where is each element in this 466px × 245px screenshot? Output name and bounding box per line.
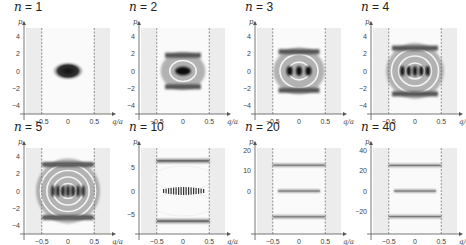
y-tick-label: 0 xyxy=(363,188,367,195)
y-axis-label: p xyxy=(133,138,138,146)
plot-panel-n-5: n = 5pq/a−0.500.5420−2−4 xyxy=(0,120,116,242)
y-tick-label: 0 xyxy=(247,188,251,195)
y-tick-label: −4 xyxy=(12,102,20,109)
y-tick-label: −4 xyxy=(127,102,135,109)
y-tick-label: 0 xyxy=(16,68,20,75)
x-tick-label: 0 xyxy=(181,238,185,245)
y-tick-label: 2 xyxy=(247,50,251,57)
y-axis-label: p xyxy=(133,18,138,26)
y-tick-label: 0 xyxy=(16,188,20,195)
x-tick-label: 0.5 xyxy=(204,238,214,245)
y-tick-label: 4 xyxy=(16,33,20,40)
x-tick-label: 0.5 xyxy=(89,238,99,245)
plot-panel-n-3: n = 3pq/a−0.500.5420−2−4 xyxy=(231,0,347,122)
y-tick-label: 2 xyxy=(363,50,367,57)
y-tick-label: −2 xyxy=(12,205,20,212)
y-axis-label: p xyxy=(365,138,370,146)
x-tick-label: −0.5 xyxy=(150,238,164,245)
y-tick-label: 2 xyxy=(16,50,20,57)
y-tick-label: 20 xyxy=(243,147,251,154)
x-tick-label: 0.5 xyxy=(320,238,330,245)
x-tick-label: −0.5 xyxy=(382,238,396,245)
phase-space-plot: pq/a−0.500.550−5 xyxy=(115,120,231,242)
y-axis-label: p xyxy=(18,138,23,146)
x-axis-label: q/a xyxy=(459,238,466,245)
density-pattern xyxy=(386,43,444,99)
plot-panel-n-10: n = 10pq/a−0.500.550−5 xyxy=(115,120,231,242)
y-tick-label: −20 xyxy=(355,208,367,215)
density-pattern xyxy=(51,61,85,81)
y-tick-label: 4 xyxy=(247,33,251,40)
y-tick-label: 10 xyxy=(243,167,251,174)
y-tick-label: −2 xyxy=(127,85,135,92)
y-tick-label: 4 xyxy=(131,33,135,40)
phase-space-plot: pq/a−0.500.520100 xyxy=(231,120,347,242)
x-tick-label: −0.5 xyxy=(35,238,49,245)
phase-space-plot: pq/a−0.500.5420−2−4 xyxy=(347,0,463,122)
density-pattern xyxy=(161,52,206,90)
plot-panel-n-40: n = 40pq/a−0.500.540200−20 xyxy=(347,120,463,242)
y-tick-label: 0 xyxy=(363,68,367,75)
y-tick-label: 2 xyxy=(16,170,20,177)
y-tick-label: 2 xyxy=(131,50,135,57)
x-tick-label: −0.5 xyxy=(266,238,280,245)
phase-space-plot: pq/a−0.500.5420−2−4 xyxy=(115,0,231,122)
y-tick-label: 0 xyxy=(131,68,135,75)
y-tick-label: 4 xyxy=(16,153,20,160)
y-tick-label: −4 xyxy=(243,102,251,109)
plot-panel-n-2: n = 2pq/a−0.500.5420−2−4 xyxy=(115,0,231,122)
y-axis-label: p xyxy=(18,18,23,26)
x-tick-label: 0 xyxy=(297,238,301,245)
phase-space-plot: pq/a−0.500.5420−2−4 xyxy=(0,0,116,122)
y-tick-label: −4 xyxy=(12,222,20,229)
y-tick-label: 20 xyxy=(359,167,367,174)
phase-space-plot: pq/a−0.500.540200−20 xyxy=(347,120,463,242)
y-axis-label: p xyxy=(249,18,254,26)
density-pattern xyxy=(36,159,100,224)
phase-space-plot: pq/a−0.500.5420−2−4 xyxy=(231,0,347,122)
y-tick-label: 40 xyxy=(359,147,367,154)
y-tick-label: −2 xyxy=(243,85,251,92)
plot-panel-n-20: n = 20pq/a−0.500.520100 xyxy=(231,120,347,242)
density-pattern xyxy=(273,48,324,95)
y-tick-label: 5 xyxy=(131,164,135,171)
plot-panel-n-4: n = 4pq/a−0.500.5420−2−4 xyxy=(347,0,463,122)
x-tick-label: 0 xyxy=(413,238,417,245)
x-tick-label: 0.5 xyxy=(436,238,446,245)
y-tick-label: 0 xyxy=(247,68,251,75)
y-tick-label: −2 xyxy=(12,85,20,92)
y-tick-label: −4 xyxy=(359,102,367,109)
y-tick-label: −5 xyxy=(127,211,135,218)
plot-panel-n-1: n = 1pq/a−0.500.5420−2−4 xyxy=(0,0,116,122)
x-tick-label: 0 xyxy=(66,238,70,245)
phase-space-plot: pq/a−0.500.5420−2−4 xyxy=(0,120,116,242)
y-tick-label: −2 xyxy=(359,85,367,92)
y-tick-label: 4 xyxy=(363,33,367,40)
y-tick-label: 0 xyxy=(131,188,135,195)
y-axis-label: p xyxy=(365,18,370,26)
y-axis-label: p xyxy=(249,138,254,146)
